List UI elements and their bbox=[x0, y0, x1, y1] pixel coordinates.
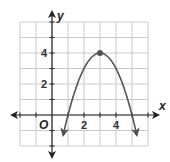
vertex-point bbox=[97, 50, 103, 56]
y-axis-label: y bbox=[56, 9, 65, 23]
y-tick-label: 2 bbox=[41, 78, 47, 90]
parabola-chart: 2424 x y O bbox=[0, 0, 170, 162]
tick-labels: 2424 bbox=[41, 47, 120, 131]
x-tick-label: 2 bbox=[81, 119, 87, 131]
x-tick-label: 4 bbox=[113, 119, 120, 131]
x-axis-label: x bbox=[158, 99, 167, 113]
y-tick-label: 4 bbox=[41, 47, 48, 59]
origin-label: O bbox=[39, 118, 49, 132]
